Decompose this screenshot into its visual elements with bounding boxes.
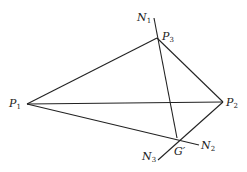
- label-g-prime: G′: [174, 146, 185, 157]
- edge-p1-p2: [27, 102, 223, 104]
- label-p3: P3: [162, 31, 174, 44]
- edge-p1-p3: [27, 38, 157, 104]
- label-n3: N3: [142, 151, 156, 164]
- label-n2: N2: [201, 140, 215, 153]
- edge-p3-p2: [157, 38, 223, 102]
- label-p2: P2: [226, 97, 238, 110]
- label-n1: N1: [137, 12, 151, 25]
- label-p1: P1: [9, 98, 21, 111]
- line-n2: [27, 104, 199, 145]
